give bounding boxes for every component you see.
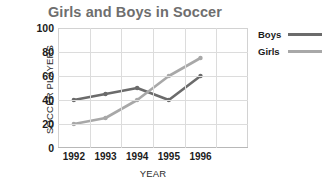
y-tick-label: 20 bbox=[28, 119, 54, 130]
legend-item-girls[interactable]: Girls bbox=[258, 45, 326, 58]
data-point-girls bbox=[198, 56, 202, 60]
x-axis-ticks: 19921993199419951996 bbox=[58, 152, 248, 166]
x-axis-label: YEAR bbox=[58, 168, 248, 179]
gridline-vertical bbox=[216, 28, 217, 148]
legend-swatch-icon bbox=[288, 33, 322, 36]
data-point-boys bbox=[103, 92, 107, 96]
data-point-boys bbox=[135, 86, 139, 90]
y-tick-label: 60 bbox=[28, 71, 54, 82]
legend-label: Boys bbox=[258, 29, 285, 40]
y-tick-label: 40 bbox=[28, 95, 54, 106]
y-tick-label: 100 bbox=[28, 23, 54, 34]
gridline-vertical bbox=[121, 28, 122, 148]
legend-label: Girls bbox=[258, 46, 285, 57]
plot-area bbox=[58, 28, 248, 148]
data-point-girls bbox=[103, 116, 107, 120]
chart-title: Girls and Boys in Soccer bbox=[0, 4, 270, 20]
gridline-vertical bbox=[153, 28, 154, 148]
y-tick-label: 80 bbox=[28, 47, 54, 58]
gridline-vertical bbox=[185, 28, 186, 148]
y-axis-ticks: SOCCER PLAYERS 020406080100 bbox=[26, 28, 54, 148]
legend-item-boys[interactable]: Boys bbox=[258, 28, 326, 41]
y-tick-label: 0 bbox=[28, 143, 54, 154]
gridline-vertical bbox=[90, 28, 91, 148]
legend-swatch-icon bbox=[288, 50, 322, 53]
x-tick-label: 1996 bbox=[181, 152, 221, 162]
line-chart: Girls and Boys in Soccer SOCCER PLAYERS … bbox=[0, 0, 326, 186]
chart-legend: BoysGirls bbox=[258, 28, 326, 62]
